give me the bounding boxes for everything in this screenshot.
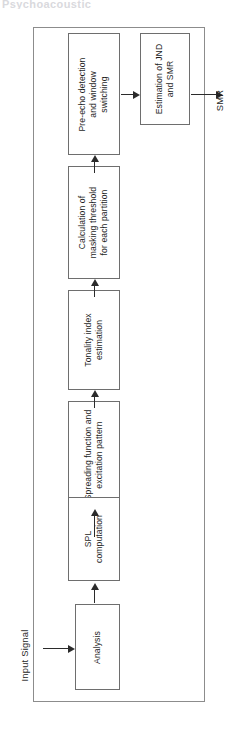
block-label-tonality: Tonality index estimation [83,313,105,366]
smr-output-label: SMR [214,88,225,114]
block-tonality-index: Tonality index estimation [68,290,120,390]
block-label-masking: Calculation of masking threshold for eac… [78,187,111,258]
clipped-header-text: Psychoacoustic [2,0,152,9]
masking-line-1: Calculation of [78,196,88,249]
masking-line-3: for each partition [100,190,110,256]
block-label-analysis: Analysis [92,631,103,664]
spl-line-2: computation [94,515,104,563]
block-analysis: Analysis [75,604,120,690]
arrow-preecho-to-estimation [121,94,134,95]
block-spreading-function: Spreading function and excitation patter… [68,401,120,509]
spreading-line-1: Spreading function and [83,410,93,501]
arrow-masking-to-preecho [94,161,95,173]
masking-line-2: masking threshold [89,187,99,258]
tonality-line-1: Tonality index [83,313,93,366]
arrow-spreading-to-tonality [94,396,95,408]
block-estimation-jnd-smr: Estimation of JND and SMR [140,33,190,125]
block-pre-echo-detection: Pre-echo detection and window switching [68,33,120,155]
pre-echo-line-3: switching [100,76,110,112]
block-masking-threshold: Calculation of masking threshold for eac… [68,166,120,279]
block-label-estimation: Estimation of JND and SMR [154,44,176,114]
arrow-tonality-to-masking [94,285,95,297]
estimation-line-1: Estimation of JND [154,44,164,114]
arrow-analysis-to-spl [94,589,95,603]
arrow-spl-to-spreading [94,515,95,537]
input-signal-label: Input Signal [19,625,30,687]
estimation-line-2: and SMR [165,61,175,98]
arrow-input-to-analysis [43,648,69,649]
spl-line-1: SPL [83,531,93,548]
block-label-pre-echo: Pre-echo detection and window switching [78,57,111,131]
tonality-line-2: estimation [94,320,104,360]
pre-echo-line-2: and window [89,71,99,117]
spreading-line-2: excitation pattern [94,421,104,488]
block-label-spreading: Spreading function and excitation patter… [83,410,105,501]
pre-echo-line-1: Pre-echo detection [78,57,88,131]
